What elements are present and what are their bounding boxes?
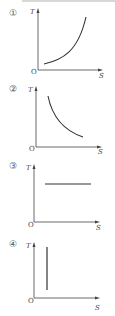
graph-2-plot: T O S [0, 78, 115, 156]
y-axis-arrow-icon [35, 86, 38, 91]
y-axis-label: T [26, 164, 32, 172]
curve [44, 17, 86, 64]
y-axis-arrow-icon [33, 242, 36, 247]
y-axis-label: T [26, 242, 32, 250]
graph-3: ③ T O S [0, 156, 115, 232]
origin-label: O [28, 221, 34, 229]
y-axis-label: T [30, 8, 36, 16]
graph-1-plot: T O S [0, 0, 115, 80]
y-axis-arrow-icon [37, 8, 40, 13]
curve [48, 96, 83, 137]
graph-2: ② T O S [0, 78, 115, 156]
origin-label: O [28, 297, 34, 305]
x-axis-label: S [95, 304, 100, 312]
x-axis-arrow-icon [95, 297, 100, 300]
y-axis-arrow-icon [33, 164, 36, 169]
y-axis-label: T [28, 86, 34, 94]
graph-3-plot: T O S [0, 156, 115, 232]
origin-label: O [31, 68, 37, 76]
graph-1: ① T O S [0, 0, 115, 80]
x-axis-label: S [96, 224, 101, 232]
graph-4-plot: T O S [0, 234, 115, 316]
x-axis-label: S [98, 148, 103, 156]
graph-4: ④ T O S [0, 234, 115, 316]
origin-label: O [29, 145, 35, 153]
